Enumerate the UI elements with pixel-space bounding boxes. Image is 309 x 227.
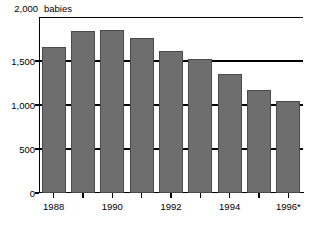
x-tick-mark-1992 [170,193,171,198]
bar-1993 [188,59,212,193]
x-tick-label-1988: 1988 [31,201,77,212]
x-tick-mark-1993 [200,193,201,198]
y-tick-label-1500: 1,500 [2,56,35,67]
x-tick-mark-1996 [288,193,289,198]
bar-1994 [218,74,242,193]
bar-1996 [276,101,300,193]
x-tick-label-1992: 1992 [148,201,194,212]
bar-1992 [159,51,183,193]
bar-1990 [100,30,124,193]
x-tick-mark-1991 [141,193,142,198]
bar-1988 [42,47,66,193]
x-tick-mark-1994 [229,193,230,198]
y-axis-max-label: 2,000 [2,3,38,14]
bar-1989 [71,31,95,193]
x-tick-mark-1988 [53,193,54,198]
y-tick-label-1000: 1,000 [2,100,35,111]
x-tick-mark-1989 [82,193,83,198]
bar-series [39,17,303,193]
bar-1991 [130,38,154,193]
bar-chart: 2,000 babies 05001,0001,500 198819901992… [0,0,309,227]
y-tick-label-500: 500 [2,144,35,155]
x-tick-label-1996: 1996* [265,201,309,212]
chart-unit-label: babies [44,3,72,14]
y-tick-label-0: 0 [2,188,35,199]
x-tick-label-1994: 1994 [207,201,253,212]
bar-1995 [247,90,271,193]
x-tick-label-1990: 1990 [89,201,135,212]
x-tick-mark-1995 [258,193,259,198]
x-tick-mark-1990 [112,193,113,198]
